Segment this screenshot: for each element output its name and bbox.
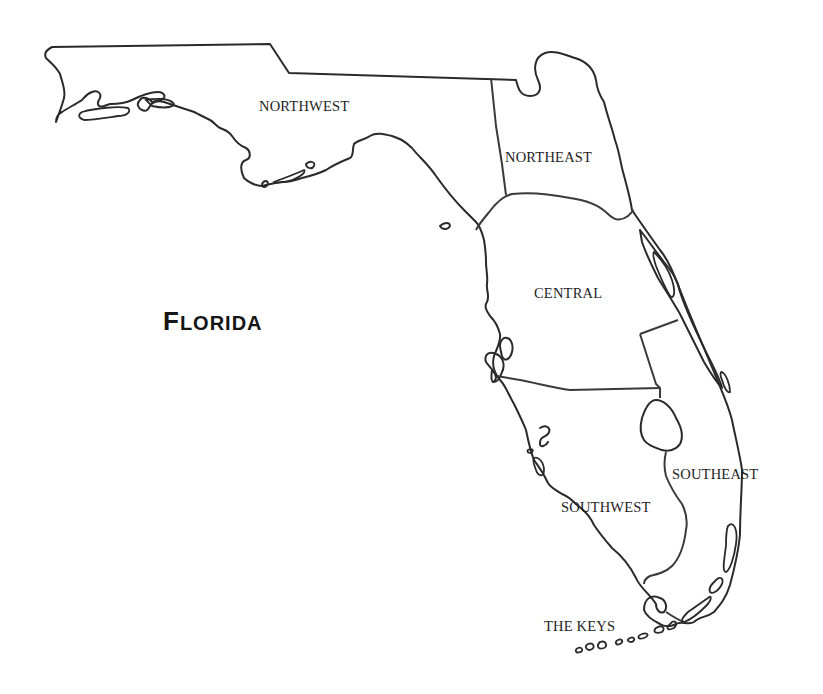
region-label-northeast: NORTHEAST bbox=[505, 149, 592, 166]
panhandle-island-4 bbox=[274, 170, 305, 183]
border-nw-ne bbox=[491, 78, 506, 195]
tampa-peninsula bbox=[500, 338, 513, 360]
border-central-south bbox=[497, 376, 660, 390]
region-label-southeast: SOUTHEAST bbox=[672, 466, 758, 483]
map-title: FLORIDA bbox=[163, 306, 263, 337]
region-label-southwest: SOUTHWEST bbox=[561, 499, 651, 516]
florida-region-map bbox=[0, 0, 823, 694]
state-outline bbox=[45, 44, 742, 626]
gulf-small-island bbox=[440, 223, 450, 229]
panhandle-island-5 bbox=[306, 162, 314, 168]
panhandle-island-3 bbox=[262, 181, 268, 187]
lake-okeechobee bbox=[641, 400, 682, 451]
region-label-central: CENTRAL bbox=[534, 285, 602, 302]
indian-river-outer bbox=[640, 230, 722, 388]
map-title-rest: LORIDA bbox=[180, 312, 263, 334]
panhandle-island-1 bbox=[79, 107, 129, 120]
border-central-se bbox=[640, 320, 678, 398]
border-north-central bbox=[476, 193, 633, 230]
region-label-northwest: NORTHWEST bbox=[259, 98, 349, 115]
map-title-initial: F bbox=[163, 306, 180, 336]
region-label-the-keys: THE KEYS bbox=[544, 618, 615, 635]
keys-islands bbox=[576, 578, 723, 653]
charlotte-harbor bbox=[540, 426, 549, 446]
